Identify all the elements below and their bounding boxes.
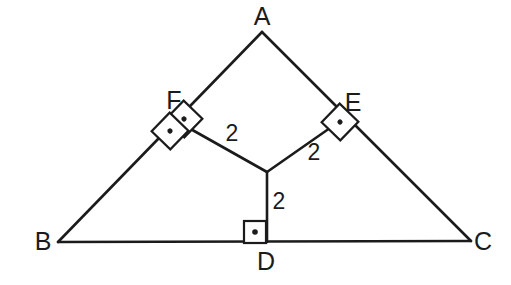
geometry-figure: A B C D E F 2 2 2 (0, 0, 511, 285)
radius-if (180, 123, 267, 172)
right-angle-dot (252, 229, 258, 235)
vertex-label-f: F (166, 88, 181, 113)
length-label-radius-ie: 2 (308, 141, 321, 164)
length-label-radius-if: 2 (226, 122, 239, 145)
vertex-label-c: C (474, 229, 492, 254)
right-angle-marker-d (244, 221, 266, 243)
vertex-label-d: D (257, 249, 275, 274)
vertex-label-a: A (254, 4, 271, 29)
length-label-radius-id: 2 (273, 190, 286, 213)
geometry-canvas (0, 0, 511, 285)
vertex-label-e: E (345, 90, 362, 115)
vertex-label-b: B (35, 229, 52, 254)
side-ac (262, 32, 471, 241)
